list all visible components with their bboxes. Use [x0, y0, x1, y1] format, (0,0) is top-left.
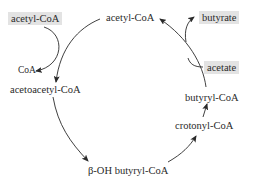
butyryl-coa-label: butyryl-CoA	[185, 91, 239, 104]
arrow-acetylcoa-to-acetoacetylcoa	[56, 19, 100, 82]
crotonyl-coa-label: crotonyl-CoA	[175, 119, 233, 132]
arrow-butyrylcoa-to-acetylcoa	[160, 19, 206, 87]
arrow-acetylcoa-input-to-coa	[36, 27, 59, 71]
beta-oh-butyryl-coa-label: β-OH butyryl-CoA	[88, 164, 168, 177]
acetyl-coa-label: acetyl-CoA	[106, 11, 154, 24]
arrow-to-butyrate	[185, 17, 194, 42]
butyrate-label: butyrate	[199, 11, 239, 24]
coa-label: CoA	[18, 64, 36, 77]
arrow-betaoh-to-crotonylcoa	[168, 136, 196, 162]
acetyl-coa-input-label: acetyl-CoA	[8, 12, 62, 25]
line-acetate-join	[188, 58, 203, 67]
arrow-acetoacetylcoa-to-betaoh	[53, 97, 88, 161]
arrow-crotonylcoa-to-butyrylcoa	[203, 104, 207, 117]
butyrate-pathway-diagram: acetyl-CoA acetyl-CoA butyrate CoA aceto…	[0, 0, 265, 188]
acetate-label: acetate	[204, 61, 239, 74]
acetoacetyl-coa-label: acetoacetyl-CoA	[10, 83, 81, 96]
